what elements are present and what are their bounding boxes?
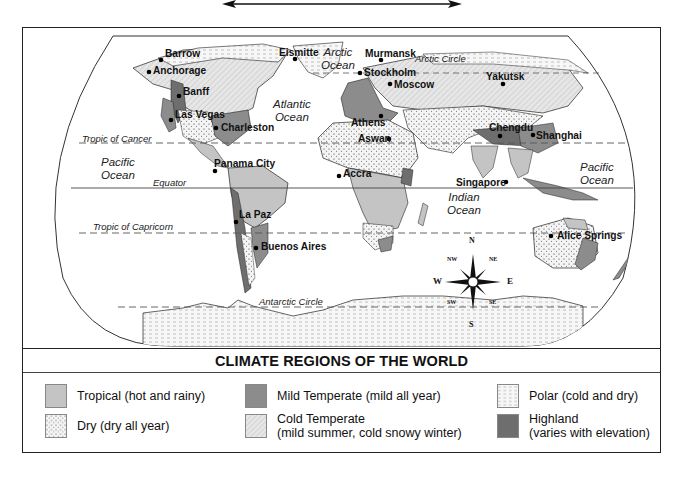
city-label-yakutsk: Yakutsk <box>486 71 525 82</box>
city-label-chengdu: Chengdu <box>489 122 533 133</box>
cold-temperate-swatch <box>245 414 267 438</box>
legend-item-cold-temperate: Cold Temperate (mild summer, cold snowy … <box>245 412 462 440</box>
ocean-label-pacific-west: Pacific Ocean <box>101 156 135 182</box>
legend-label-cold-temperate: Cold Temperate (mild summer, cold snowy … <box>277 412 462 440</box>
city-label-charleston: Charleston <box>221 122 274 133</box>
compass-ne: NE <box>489 256 497 262</box>
city-label-la-paz: La Paz <box>239 209 271 220</box>
legend-item-tropical: Tropical (hot and rainy) <box>45 384 205 408</box>
city-label-singapore: Singapore <box>456 177 506 188</box>
city-label-moscow: Moscow <box>394 79 434 90</box>
city-label-panama-city: Panama City <box>214 158 275 169</box>
legend-label-dry: Dry (dry all year) <box>77 419 169 433</box>
map-title: CLIMATE REGIONS OF THE WORLD <box>23 348 660 373</box>
compass-s: S <box>469 320 473 329</box>
cold-temperate-subtitle: (mild summer, cold snowy winter) <box>277 426 462 440</box>
city-label-accra: Accra <box>343 168 371 179</box>
highland-swatch <box>497 414 519 438</box>
compass-w: W <box>433 276 442 286</box>
legend-item-mild-temperate: Mild Temperate (mild all year) <box>245 384 441 408</box>
city-label-murmansk: Murmansk <box>365 48 416 59</box>
tropic-of-cancer-label: Tropic of Cancer <box>82 133 152 144</box>
city-label-shanghai: Shanghai <box>536 130 582 141</box>
mild-temperate-swatch <box>245 384 267 408</box>
legend-label-polar: Polar (cold and dry) <box>529 389 638 403</box>
city-label-eismitte: Eismitte <box>279 47 319 58</box>
africa-highland <box>401 168 413 186</box>
double-headed-arrow <box>222 0 462 10</box>
city-label-aswan: Aswan <box>358 133 391 144</box>
tropical-swatch <box>45 384 67 408</box>
compass-sw: SW <box>447 299 456 305</box>
ocean-label-indian: Indian Ocean <box>447 191 481 217</box>
city-label-banff: Banff <box>183 86 209 97</box>
legend-label-highland: Highland (varies with elevation) <box>529 412 650 440</box>
legend-label-mild-temperate: Mild Temperate (mild all year) <box>277 389 441 403</box>
ocean-label-arctic: Arctic Ocean <box>321 46 355 72</box>
antarctic-circle-label: Antarctic Circle <box>259 296 323 307</box>
legend-item-polar: Polar (cold and dry) <box>497 384 638 408</box>
highland-subtitle: (varies with elevation) <box>529 426 650 440</box>
world-map <box>23 28 660 348</box>
city-label-buenos-aires: Buenos Aires <box>261 241 326 252</box>
legend-item-highland: Highland (varies with elevation) <box>497 412 650 440</box>
legend: Tropical (hot and rainy) Dry (dry all ye… <box>23 373 660 453</box>
legend-label-tropical: Tropical (hot and rainy) <box>77 389 205 403</box>
ocean-label-atlantic: Atlantic Ocean <box>273 98 311 124</box>
highland-title: Highland <box>529 412 578 426</box>
city-label-las-vegas: Las Vegas <box>175 109 225 120</box>
city-label-anchorage: Anchorage <box>153 65 206 76</box>
equator-label: Equator <box>153 177 186 188</box>
legend-item-dry: Dry (dry all year) <box>45 414 169 438</box>
compass-se: SE <box>489 299 496 305</box>
compass-nw: NW <box>447 256 457 262</box>
map-frame: Barrow Anchorage Banff Las Vegas Charles… <box>22 27 661 453</box>
compass-n: N <box>469 236 475 245</box>
compass-e: E <box>507 276 513 286</box>
tropic-of-capricorn-label: Tropic of Capricorn <box>93 221 173 232</box>
cold-temperate-title: Cold Temperate <box>277 412 365 426</box>
city-label-alice-springs: Alice Springs <box>557 230 622 241</box>
city-label-stockholm: Stockholm <box>364 67 416 78</box>
polar-swatch <box>497 384 519 408</box>
ocean-label-pacific-east: Pacific Ocean <box>580 161 614 187</box>
arctic-circle-label: Arctic Circle <box>415 53 466 64</box>
city-label-athens: Athens <box>351 117 386 128</box>
dry-swatch <box>45 414 67 438</box>
city-label-barrow: Barrow <box>165 48 200 59</box>
